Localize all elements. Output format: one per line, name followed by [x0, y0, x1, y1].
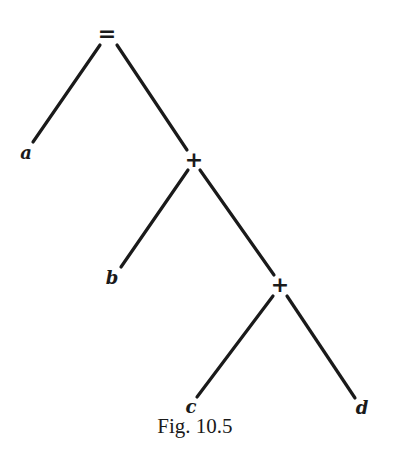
expression-tree-figure: = a + b + c d Fig. 10.5 — [0, 0, 393, 461]
edge-plus1-b — [121, 170, 188, 267]
edge-plus2-d — [287, 296, 355, 398]
edge-root-plus1 — [117, 45, 187, 150]
node-plus-2: + — [271, 274, 289, 296]
edge-plus1-plus2 — [200, 170, 274, 275]
node-leaf-b: b — [106, 269, 119, 287]
figure-caption: Fig. 10.5 — [149, 414, 241, 439]
edge-plus2-c — [197, 296, 273, 397]
node-leaf-a: a — [20, 144, 32, 162]
edge-root-a — [33, 45, 100, 142]
tree-edges — [0, 0, 393, 461]
node-leaf-d: d — [356, 399, 369, 417]
node-plus-1: + — [185, 149, 203, 171]
node-root-equals: = — [98, 23, 116, 45]
